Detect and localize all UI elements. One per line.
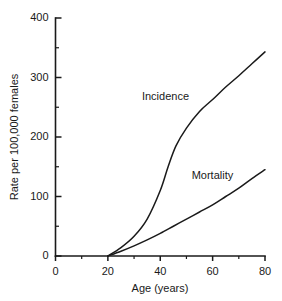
x-tick-label: 20: [102, 265, 114, 277]
x-axis-title: Age (years): [132, 282, 189, 294]
series-label-incidence: Incidence: [142, 90, 189, 102]
y-tick-label: 200: [30, 130, 48, 142]
x-tick-label: 80: [259, 265, 271, 277]
incidence-mortality-line-chart: 0100200300400 020406080 Age (years) Rate…: [0, 0, 282, 301]
x-tick-label: 0: [52, 265, 58, 277]
y-tick-label: 0: [42, 249, 48, 261]
y-tick-label: 300: [30, 71, 48, 83]
y-tick-label: 100: [30, 190, 48, 202]
x-tick-label: 40: [154, 265, 166, 277]
chart-figure: 0100200300400 020406080 Age (years) Rate…: [0, 0, 282, 301]
y-axis-title: Rate per 100,000 females: [8, 73, 20, 200]
series-label-mortality: Mortality: [192, 169, 234, 181]
y-tick-label: 400: [30, 11, 48, 23]
x-tick-label: 60: [207, 265, 219, 277]
